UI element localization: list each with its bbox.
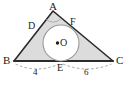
tangent-label-d: D — [28, 21, 35, 31]
vertex-label-b: B — [3, 55, 10, 66]
geometry-figure: A B C D E F O 4 6 — [0, 0, 126, 86]
tangent-label-f: F — [70, 17, 76, 27]
tangent-label-e: E — [57, 63, 63, 73]
vertex-label-a: A — [49, 1, 57, 12]
vertex-label-c: C — [116, 55, 123, 66]
center-dot-icon — [56, 41, 59, 44]
center-label-o: O — [60, 38, 67, 48]
length-label-be: 4 — [33, 68, 38, 77]
length-label-ec: 6 — [84, 68, 89, 77]
